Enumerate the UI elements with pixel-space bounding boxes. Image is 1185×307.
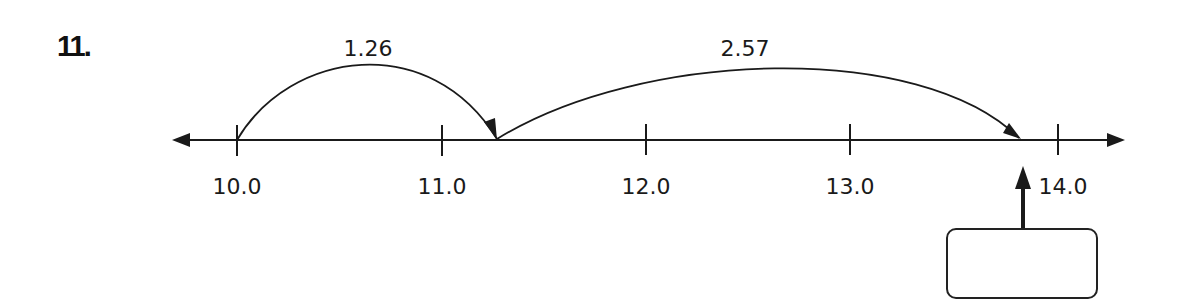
- jump-arc-1: [237, 65, 497, 140]
- number-line-axis: [172, 133, 1125, 147]
- right-arrow-icon: [1107, 133, 1125, 147]
- jump-arc-1-arrowhead-icon: [484, 118, 497, 140]
- pointer-arrow-up-icon: [1015, 166, 1031, 189]
- tick-label-12: 12.0: [622, 174, 671, 199]
- answer-box[interactable]: [946, 228, 1098, 299]
- jump-label-1: 1.26: [344, 36, 393, 61]
- tick-label-11: 11.0: [418, 174, 467, 199]
- left-arrow-icon: [172, 133, 190, 147]
- tick-label-13: 13.0: [826, 174, 875, 199]
- jump-arc-2: [497, 68, 1019, 139]
- tick-label-14: 14.0: [1039, 174, 1088, 199]
- jump-label-2: 2.57: [721, 36, 770, 61]
- tick-label-10: 10.0: [213, 174, 262, 199]
